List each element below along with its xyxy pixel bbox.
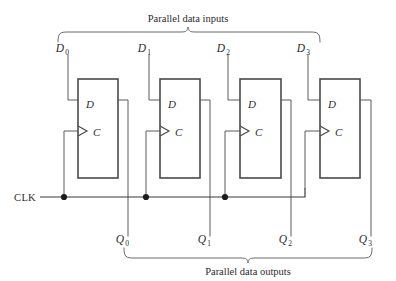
output-label-0: Q	[116, 233, 125, 245]
output-label-1: Q	[198, 233, 207, 245]
output-label-3: Q	[359, 233, 368, 245]
input-sub-0: 0	[65, 48, 69, 57]
wire-ff2-to-q2	[281, 100, 291, 236]
ff0-c-label: C	[93, 126, 101, 138]
clock-bus	[40, 188, 305, 200]
input-label-2: D	[216, 42, 226, 54]
ff0-d-label: D	[85, 98, 94, 110]
ff2-c-label: C	[255, 126, 263, 138]
clk-junction-dot-0	[61, 194, 67, 200]
wire-ff0-to-q0	[118, 100, 128, 236]
port-labels: D C D C D C D C	[85, 98, 343, 138]
wire-clk-to-ff1	[146, 131, 160, 197]
input-sub-2: 2	[226, 48, 230, 57]
wire-d0-to-ff0	[68, 55, 78, 100]
flipflop-0	[64, 55, 128, 236]
output-sub-2: 2	[288, 239, 292, 248]
input-label-0: D	[55, 42, 65, 54]
output-sub-0: 0	[125, 239, 129, 248]
diagram-canvas: Parallel data inputs D 0 D 1 D 2 D 3 D C…	[0, 0, 396, 281]
wire-d3-to-ff3	[308, 55, 320, 100]
top-caption: Parallel data inputs	[148, 13, 228, 24]
top-brace	[58, 27, 320, 42]
output-sub-3: 3	[368, 239, 372, 248]
flipflop-1	[146, 55, 210, 236]
wire-clk-to-ff3	[305, 131, 320, 188]
input-label-3: D	[296, 42, 306, 54]
bottom-brace	[124, 248, 372, 263]
flipflop-2	[225, 55, 291, 236]
wire-clk-to-ff2	[225, 131, 240, 197]
clk-junction-dot-1	[143, 194, 149, 200]
wire-d2-to-ff2	[228, 55, 240, 100]
clk-bus-line	[40, 188, 305, 197]
output-label-2: Q	[279, 233, 288, 245]
ff3-c-label: C	[335, 126, 343, 138]
wire-ff1-to-q1	[200, 100, 210, 236]
ff1-c-label: C	[175, 126, 183, 138]
ff3-d-label: D	[327, 98, 336, 110]
input-label-1: D	[137, 42, 147, 54]
flipflop-3	[305, 55, 371, 236]
input-labels: D 0 D 1 D 2 D 3	[55, 42, 310, 57]
wire-d1-to-ff1	[149, 55, 160, 100]
ff1-d-label: D	[167, 98, 176, 110]
wire-ff3-to-q3	[360, 100, 371, 236]
clk-label: CLK	[14, 192, 36, 203]
output-sub-1: 1	[207, 239, 211, 248]
input-sub-3: 3	[306, 48, 310, 57]
ff2-d-label: D	[247, 98, 256, 110]
input-sub-1: 1	[147, 48, 151, 57]
bottom-caption: Parallel data outputs	[205, 266, 291, 277]
logic-diagram-figure: Parallel data inputs D 0 D 1 D 2 D 3 D C…	[0, 0, 396, 281]
output-labels: Q 0 Q 1 Q 2 Q 3	[116, 233, 372, 248]
clk-junction-dot-2	[222, 194, 228, 200]
wire-clk-to-ff0	[64, 131, 78, 197]
